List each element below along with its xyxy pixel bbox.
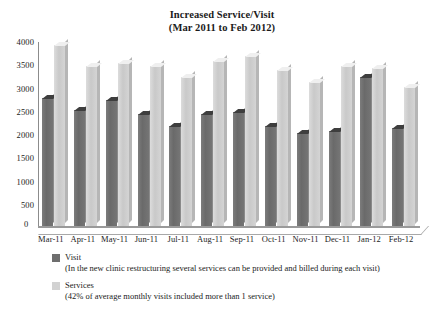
- bar-face: [213, 61, 224, 226]
- bar-visit: [42, 98, 53, 226]
- bar-face: [181, 77, 192, 226]
- bar-group: [265, 40, 297, 226]
- bar-side: [256, 50, 259, 223]
- bar-side: [192, 71, 195, 223]
- x-axis-tick-label: Apr-11: [67, 234, 99, 244]
- bar-top: [372, 65, 388, 69]
- bar-side: [415, 80, 418, 223]
- bar-face: [297, 133, 308, 226]
- bar-group: [392, 40, 424, 226]
- bar-face: [54, 45, 65, 226]
- bar-side: [320, 76, 323, 223]
- bar-face: [150, 66, 161, 226]
- bar-visit: [138, 114, 149, 226]
- y-axis-tick-label: 2500: [17, 107, 34, 117]
- bar-visit: [265, 126, 276, 226]
- bar-visit: [392, 128, 403, 226]
- bar-services: [213, 61, 224, 226]
- bar-side: [129, 57, 132, 223]
- bar-face: [245, 56, 256, 226]
- y-axis-tick-label: 1500: [17, 153, 34, 163]
- bar-face: [277, 70, 288, 226]
- chart-figure: Increased Service/Visit (Mar 2011 to Feb…: [0, 0, 444, 310]
- y-axis-tick-label: 4000: [17, 37, 34, 47]
- bar-face: [372, 68, 383, 226]
- bar-group: [201, 40, 233, 226]
- bar-group: [106, 40, 138, 226]
- bar-face: [265, 126, 276, 226]
- legend-label: Services: [65, 280, 442, 291]
- legend-note: (42% of average monthly visits included …: [65, 291, 442, 302]
- bar-visit: [329, 131, 340, 226]
- y-axis-tick-label: 3500: [17, 60, 34, 70]
- bar-services: [86, 66, 97, 226]
- bar-services: [341, 66, 352, 226]
- bar-services: [150, 66, 161, 226]
- x-axis-tick-label: Aug-11: [194, 234, 226, 244]
- bar-services: [277, 70, 288, 226]
- bar-face: [201, 114, 212, 226]
- bar-face: [329, 131, 340, 226]
- bar-services: [245, 56, 256, 226]
- bar-group: [138, 40, 170, 226]
- bar-face: [392, 128, 403, 226]
- bar-services: [372, 68, 383, 226]
- bar-visit: [169, 126, 180, 226]
- y-axis-tick-label: 500: [21, 200, 34, 210]
- legend-entry: Services(42% of average monthly visits i…: [52, 280, 442, 302]
- bar-face: [341, 66, 352, 226]
- bar-side: [352, 59, 355, 223]
- bar-services: [181, 77, 192, 226]
- x-axis-tick-label: Dec-11: [322, 234, 354, 244]
- bar-group: [233, 40, 265, 226]
- bar-visit: [297, 133, 308, 226]
- y-axis-tick-label: 1000: [17, 177, 34, 187]
- legend-swatch-visit: [52, 254, 60, 262]
- y-axis-tick-label: 2000: [17, 130, 34, 140]
- bar-services: [54, 45, 65, 226]
- bar-group: [329, 40, 361, 226]
- x-axis-tick-label: Jan-12: [353, 234, 385, 244]
- page-title: Increased Service/Visit: [0, 8, 444, 21]
- bar-side: [97, 59, 100, 223]
- bar-face: [309, 82, 320, 226]
- bar-group: [169, 40, 201, 226]
- chart-title-block: Increased Service/Visit (Mar 2011 to Feb…: [0, 8, 444, 34]
- bar-face: [106, 100, 117, 226]
- x-axis-labels: Mar-11Apr-11May-11Jun-11Jul-11Aug-11Sep-…: [38, 234, 420, 248]
- bar-side: [65, 39, 68, 223]
- legend-entry: Visit(In the new clinic restructuring se…: [52, 252, 442, 274]
- bar-side: [224, 55, 227, 223]
- x-axis-tick-label: May-11: [99, 234, 131, 244]
- bar-group: [360, 40, 392, 226]
- bar-face: [169, 126, 180, 226]
- legend-swatch-services: [52, 282, 60, 290]
- y-axis-line: [38, 42, 39, 228]
- chart-subtitle: (Mar 2011 to Feb 2012): [0, 21, 444, 34]
- x-axis-tick-label: Mar-11: [35, 234, 67, 244]
- bar-services: [404, 87, 415, 227]
- y-axis-zero-label: 0: [24, 219, 28, 229]
- x-axis-tick-label: Feb-12: [385, 234, 417, 244]
- plot-area: 4000350030002500200015001000500: [38, 40, 420, 228]
- bar-top: [181, 74, 197, 78]
- bar-face: [118, 63, 129, 226]
- bar-face: [42, 98, 53, 226]
- bar-services: [118, 63, 129, 226]
- legend-note: (In the new clinic restructuring several…: [65, 263, 442, 274]
- bar-face: [360, 77, 371, 226]
- bar-side: [161, 59, 164, 223]
- bar-visit: [74, 110, 85, 226]
- legend-label: Visit: [65, 252, 442, 263]
- x-axis-tick-label: Oct-11: [258, 234, 290, 244]
- bar-visit: [201, 114, 212, 226]
- bar-group: [42, 40, 74, 226]
- x-axis-tick-label: Jun-11: [131, 234, 163, 244]
- bar-side: [383, 62, 386, 223]
- bar-face: [86, 66, 97, 226]
- bar-group: [74, 40, 106, 226]
- bar-side: [288, 64, 291, 223]
- y-axis-tick-label: 3000: [17, 84, 34, 94]
- bar-group: [297, 40, 329, 226]
- bar-face: [233, 112, 244, 226]
